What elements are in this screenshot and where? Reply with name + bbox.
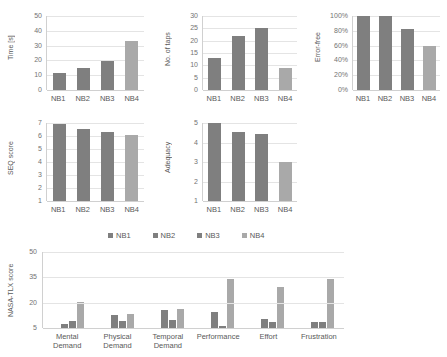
bar-nb1	[53, 124, 66, 201]
chart-nasa-tlx-bars	[43, 252, 344, 328]
y-axis-tick: 10	[4, 71, 42, 78]
y-axis-tick: 20%	[312, 71, 348, 78]
bar-group-performance	[203, 252, 234, 328]
y-axis-tick: 40%	[312, 56, 348, 63]
bar-nb3	[101, 61, 114, 90]
legend-item-nb2[interactable]: NB2	[153, 231, 176, 240]
x-axis-label: TemporalDemand	[143, 332, 193, 351]
chart-taps: No. of taps NB1NB2NB3NB4 051015202530	[160, 6, 305, 111]
x-axis-label: NB4	[273, 205, 297, 214]
legend-label: NB1	[116, 231, 131, 240]
gridline	[43, 252, 344, 253]
x-axis-label: NB1	[202, 205, 226, 214]
bar-nb2	[111, 315, 118, 328]
chart-taps-xlabels: NB1NB2NB3NB4	[202, 94, 297, 103]
y-axis-tick: 20	[4, 56, 42, 63]
bar-nb4	[77, 302, 84, 328]
bar-nb4	[423, 46, 436, 90]
chart-time: Time [s] NB1NB2NB3NB4 01020304050	[4, 6, 149, 111]
x-axis-label: NB3	[95, 205, 120, 214]
y-axis-tick: 100%	[312, 12, 348, 19]
y-axis-tick: 5	[4, 145, 42, 152]
y-axis-tick: 7	[4, 119, 42, 126]
bar-nb3	[169, 320, 176, 328]
x-axis-label: NB4	[273, 94, 297, 103]
x-axis-label: NB2	[226, 94, 250, 103]
chart-error-free: Error-free NB1NB2NB3NB4 0%20%40%60%80%10…	[312, 6, 445, 111]
bar-group-mental-demand	[53, 252, 84, 328]
y-axis-tick: 4	[160, 139, 198, 146]
bar-group-physical-demand	[103, 252, 134, 328]
chart-adequacy-plot	[202, 123, 297, 201]
bar-group-frustration	[303, 252, 334, 328]
chart-error-free-plot	[352, 16, 440, 90]
x-axis-label: NB2	[71, 205, 96, 214]
legend-swatch-icon	[108, 233, 113, 238]
gridline	[43, 303, 344, 304]
bar-nb2	[261, 319, 268, 328]
y-axis-tick: 5	[4, 324, 37, 331]
y-axis-tick: 20	[4, 299, 37, 306]
bar-group	[203, 16, 297, 90]
gridline	[47, 90, 144, 91]
chart-error-free-xlabels: NB1NB2NB3NB4	[352, 94, 440, 103]
chart-time-xlabels: NB1NB2NB3NB4	[46, 94, 144, 103]
x-axis-label: NB1	[46, 94, 71, 103]
bar-nb3	[101, 132, 114, 201]
y-axis-tick: 0	[4, 86, 42, 93]
y-axis-tick: 5	[160, 74, 198, 81]
y-axis-tick: 50	[4, 248, 37, 255]
gridline	[353, 90, 440, 91]
bar-nb3	[119, 321, 126, 328]
bar-nb1	[53, 73, 66, 90]
x-axis-label: NB4	[418, 94, 440, 103]
legend-label: NB3	[205, 231, 220, 240]
bar-nb2	[232, 132, 245, 201]
x-axis-label: Effort	[243, 332, 293, 351]
x-axis-label: NB4	[120, 205, 145, 214]
bar-nb1	[208, 58, 221, 90]
y-axis-tick: 10	[160, 61, 198, 68]
x-axis-label: MentalDemand	[42, 332, 92, 351]
y-axis-tick: 1	[4, 197, 42, 204]
bar-group	[47, 16, 144, 90]
chart-taps-plot	[202, 16, 297, 90]
y-axis-tick: 35	[4, 273, 37, 280]
x-axis-label: NB1	[202, 94, 226, 103]
y-axis-tick: 30	[4, 42, 42, 49]
y-axis-tick: 80%	[312, 27, 348, 34]
y-axis-tick: 1	[160, 197, 198, 204]
x-axis-label: NB2	[374, 94, 396, 103]
x-axis-label: NB4	[120, 94, 145, 103]
gridline	[43, 277, 344, 278]
bar-nb1	[208, 123, 221, 201]
legend-item-nb3[interactable]: NB3	[197, 231, 220, 240]
bar-nb4	[279, 68, 292, 90]
chart-seq-plot	[46, 123, 144, 201]
legend-item-nb1[interactable]: NB1	[108, 231, 131, 240]
y-axis-tick: 4	[4, 158, 42, 165]
bar-group-effort	[253, 252, 284, 328]
bar-nb2	[379, 16, 392, 90]
y-axis-tick: 30	[160, 12, 198, 19]
x-axis-label: Frustration	[294, 332, 344, 351]
x-axis-label: PhysicalDemand	[92, 332, 142, 351]
x-axis-label: NB3	[250, 94, 274, 103]
bar-nb2	[161, 310, 168, 328]
chart-nasa-tlx-xlabels: MentalDemandPhysicalDemandTemporalDemand…	[42, 332, 344, 351]
x-axis-label: NB3	[250, 205, 274, 214]
legend-item-nb4[interactable]: NB4	[242, 231, 265, 240]
chart-nasa-tlx: NASA-TLX score MentalDemandPhysicalDeman…	[4, 246, 344, 354]
y-axis-tick: 50	[4, 12, 42, 19]
bar-nb2	[211, 312, 218, 328]
legend-label: NB2	[161, 231, 176, 240]
chart-nasa-tlx-ylabel: NASA-TLX score	[7, 254, 14, 326]
gridline	[43, 328, 344, 329]
gridline	[203, 201, 297, 202]
chart-adequacy-xlabels: NB1NB2NB3NB4	[202, 205, 297, 214]
y-axis-tick: 3	[160, 158, 198, 165]
legend-swatch-icon	[242, 233, 247, 238]
y-axis-tick: 0	[160, 86, 198, 93]
bar-nb4	[279, 162, 292, 201]
x-axis-label: NB3	[95, 94, 120, 103]
